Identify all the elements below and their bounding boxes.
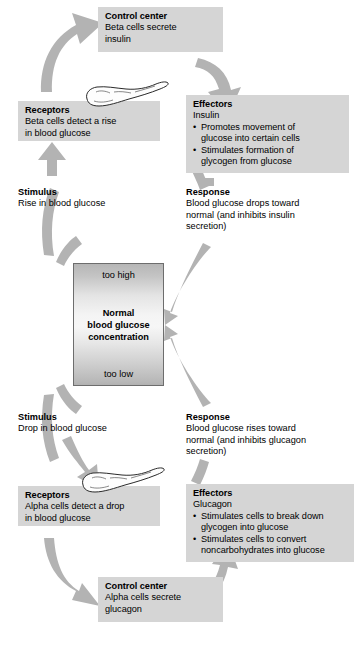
pancreas-icon bbox=[78, 466, 166, 498]
response-line1-upper: Blood glucose drops toward bbox=[186, 198, 354, 209]
arrow-response-to-center-lower bbox=[164, 325, 211, 407]
response-line2-lower: normal (and inhibits glucagon bbox=[186, 435, 355, 446]
too-high-label: too high bbox=[74, 270, 163, 280]
effectors-box-lower[interactable]: Effectors Glucagon Stimulates cells to b… bbox=[186, 484, 354, 562]
effectors-line1-lower: Glucagon bbox=[193, 499, 348, 510]
arrow-arc-left-upper bbox=[56, 236, 82, 266]
diagram-canvas: Control center Beta cells secrete insuli… bbox=[0, 0, 355, 649]
effectors-heading-upper: Effectors bbox=[193, 99, 343, 110]
response-label-lower: Response Blood glucose rises toward norm… bbox=[186, 412, 355, 458]
stimulus-heading-lower: Stimulus bbox=[18, 412, 168, 423]
response-heading-lower: Response bbox=[186, 412, 355, 423]
response-line3-lower: secretion) bbox=[186, 446, 355, 457]
arrow-stimulus-to-receptors-upper bbox=[38, 142, 66, 176]
receptors-line1-upper: Beta cells detect a rise bbox=[25, 116, 154, 127]
pancreas-icon bbox=[82, 80, 170, 112]
arrow-response-tail-upper bbox=[204, 178, 214, 186]
effectors-bullet-upper-1: Promotes movement of glucose into certai… bbox=[193, 122, 343, 145]
effectors-box-upper[interactable]: Effectors Insulin Promotes movement of g… bbox=[186, 95, 349, 173]
stimulus-label-lower: Stimulus Drop in blood glucose bbox=[18, 412, 168, 435]
stimulus-line1-lower: Drop in blood glucose bbox=[18, 423, 168, 434]
stimulus-line1-upper: Rise in blood glucose bbox=[18, 198, 168, 209]
response-line3-upper: secretion) bbox=[186, 221, 354, 232]
control-center-box-upper[interactable]: Control center Beta cells secrete insuli… bbox=[98, 7, 223, 52]
control-center-line2-lower: glucagon bbox=[105, 604, 217, 615]
stimulus-label-upper: Stimulus Rise in blood glucose bbox=[18, 187, 168, 210]
normal-range-text: Normal blood glucose concentration bbox=[74, 306, 163, 343]
effectors-bullets-upper: Promotes movement of glucose into certai… bbox=[193, 122, 343, 168]
stimulus-heading-upper: Stimulus bbox=[18, 187, 168, 198]
control-center-box-lower[interactable]: Control center Alpha cells secrete gluca… bbox=[98, 577, 223, 622]
receptors-line1-lower: Alpha cells detect a drop bbox=[25, 501, 154, 512]
control-center-heading-upper: Control center bbox=[105, 11, 217, 22]
arrow-response-to-effectors-lower bbox=[191, 459, 209, 485]
arrow-arc-left-lower bbox=[56, 384, 82, 414]
response-line1-lower: Blood glucose rises toward bbox=[186, 423, 355, 434]
effectors-line1-upper: Insulin bbox=[193, 110, 343, 121]
arrow-receptors-to-control-lower bbox=[44, 538, 100, 606]
effectors-bullet-lower-2: Stimulates cells to convert noncarbohydr… bbox=[193, 534, 348, 557]
receptors-line2-lower: in blood glucose bbox=[25, 513, 154, 524]
control-center-line2-upper: insulin bbox=[105, 34, 217, 45]
effectors-bullet-lower-1: Stimulates cells to break down glycogen … bbox=[193, 511, 348, 534]
effectors-heading-lower: Effectors bbox=[193, 488, 348, 499]
effectors-bullet-upper-2: Stimulates formation of glycogen from gl… bbox=[193, 145, 343, 168]
arrow-response-to-center-upper bbox=[164, 243, 211, 325]
response-label-upper: Response Blood glucose drops toward norm… bbox=[186, 187, 354, 233]
receptors-line2-upper: in blood glucose bbox=[25, 128, 154, 139]
control-center-line1-lower: Alpha cells secrete bbox=[105, 592, 217, 603]
control-center-heading-lower: Control center bbox=[105, 581, 217, 592]
response-line2-upper: normal (and inhibits insulin bbox=[186, 210, 354, 221]
control-center-line1-upper: Beta cells secrete bbox=[105, 22, 217, 33]
too-low-label: too low bbox=[74, 369, 163, 379]
response-heading-upper: Response bbox=[186, 187, 354, 198]
normal-range-box: too high Normal blood glucose concentrat… bbox=[73, 263, 164, 386]
effectors-bullets-lower: Stimulates cells to break down glycogen … bbox=[193, 511, 348, 557]
